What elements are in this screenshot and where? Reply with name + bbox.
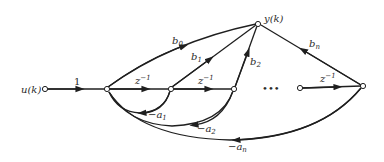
a2-label: −a2: [197, 123, 216, 136]
delay-n-label: z−1: [319, 72, 336, 84]
node-3: [231, 86, 236, 91]
ellipsis: •••: [262, 83, 280, 94]
edge-an: [109, 88, 361, 140]
node-5: [360, 83, 365, 88]
b0-label: b0: [172, 35, 183, 48]
arrow-icon: [236, 88, 361, 140]
input-gain-label: 1: [74, 76, 80, 87]
signal-flow-graph: u(k) y(k) 1 z−1 z−1 z−1 b0 b1 b2 bn −a1 …: [0, 0, 384, 162]
node-1: [104, 86, 109, 91]
an-label: −an: [228, 141, 247, 154]
b2-label: b2: [250, 56, 261, 69]
node-input: [42, 86, 47, 91]
node-4: [297, 85, 302, 90]
arrow-icon: [302, 87, 338, 88]
edge-a2: [109, 91, 233, 126]
bn-label: bn: [309, 38, 320, 51]
b1-label: b1: [191, 51, 202, 64]
delay-1-label: z−1: [134, 74, 151, 86]
delay-2-label: z−1: [197, 74, 214, 86]
a1-label: −a1: [148, 109, 167, 122]
output-label: y(k): [263, 13, 284, 24]
node-2: [168, 86, 173, 91]
arrow-icon: [194, 91, 233, 125]
edge-b0: [108, 24, 256, 87]
arrow-icon: [235, 52, 248, 87]
input-label: u(k): [21, 84, 41, 95]
arrow-icon: [172, 59, 210, 87]
node-output: [255, 21, 260, 26]
